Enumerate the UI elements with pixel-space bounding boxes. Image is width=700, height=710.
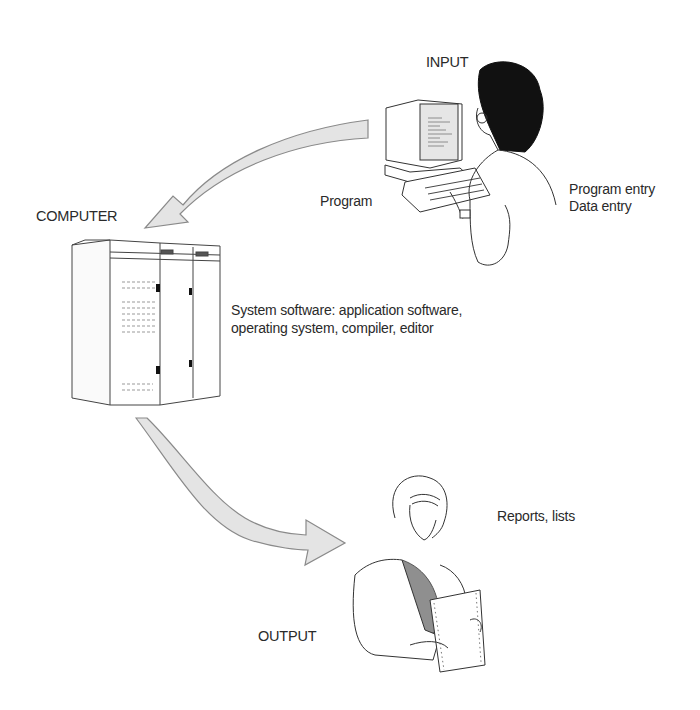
input-caption-line-2: Data entry bbox=[569, 198, 632, 215]
node-title-input: INPUT bbox=[426, 54, 469, 71]
woman-reading-icon bbox=[353, 476, 485, 672]
node-title-output: OUTPUT bbox=[258, 628, 316, 645]
curved-arrow-icon bbox=[145, 120, 368, 228]
input-caption-line-1: Program entry bbox=[569, 181, 655, 198]
mainframe-icon bbox=[72, 240, 220, 405]
node-title-computer: COMPUTER bbox=[36, 208, 117, 225]
computer-caption-line-2: operating system, compiler, editor bbox=[231, 320, 434, 337]
edge-label-program: Program bbox=[320, 193, 372, 210]
person-at-terminal-icon bbox=[385, 62, 556, 265]
curved-arrow-icon bbox=[136, 418, 345, 565]
output-caption-line-1: Reports, lists bbox=[497, 508, 575, 525]
computer-caption-line-1: System software: application software, bbox=[231, 302, 462, 319]
diagram-canvas bbox=[0, 0, 700, 710]
